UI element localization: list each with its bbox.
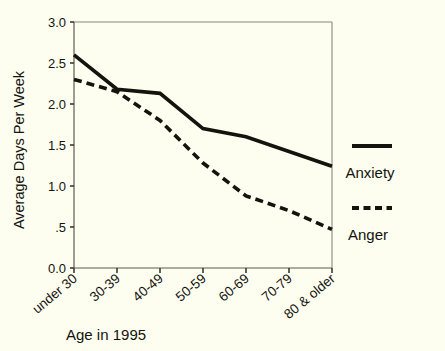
y-tick-label: 3.0 bbox=[48, 15, 66, 30]
y-axis-tick-labels: 0.0.51.01.52.02.53.0 bbox=[48, 15, 66, 276]
x-category-label: 50-59 bbox=[173, 271, 209, 305]
y-tick-label: 2.0 bbox=[48, 97, 66, 112]
data-series-group bbox=[74, 55, 332, 230]
y-tick-label: 1.5 bbox=[48, 138, 66, 153]
x-category-label: 40-49 bbox=[130, 271, 166, 305]
y-tick-label: 1.0 bbox=[48, 179, 66, 194]
plot-frame bbox=[74, 22, 332, 268]
x-category-label: 30-39 bbox=[87, 271, 123, 305]
legend-label-anger: Anger bbox=[348, 226, 388, 243]
y-axis-title: Average Days Per Week bbox=[11, 70, 27, 229]
legend-label-anxiety: Anxiety bbox=[345, 164, 395, 181]
y-tick-label: .5 bbox=[55, 220, 66, 235]
series-line-anxiety bbox=[74, 55, 332, 167]
x-category-label: under 30 bbox=[29, 271, 79, 317]
legend: Anxiety Anger bbox=[345, 146, 395, 243]
x-category-label: 60-69 bbox=[216, 271, 252, 305]
line-chart: 0.0.51.01.52.02.53.0 under 3030-3940-495… bbox=[0, 0, 445, 351]
x-category-label: 70-79 bbox=[259, 271, 295, 305]
y-tick-label: 0.0 bbox=[48, 261, 66, 276]
chart-container: 0.0.51.01.52.02.53.0 under 3030-3940-495… bbox=[0, 0, 445, 351]
x-axis-title: Age in 1995 bbox=[66, 326, 146, 343]
x-axis-category-labels: under 3030-3940-4950-5960-6970-7980 & ol… bbox=[29, 270, 338, 321]
y-tick-label: 2.5 bbox=[48, 56, 66, 71]
